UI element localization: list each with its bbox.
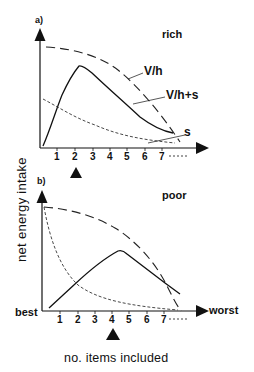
leader-v-hs: [133, 97, 165, 104]
tick-label: 3: [92, 314, 98, 325]
tick-label: 5: [124, 151, 130, 162]
tick-label: 3: [90, 151, 96, 162]
tick-label: 5: [126, 314, 132, 325]
optimum-marker-a-icon: [70, 167, 82, 178]
label-v-hs: V/h+s: [166, 88, 198, 102]
curve-v-hs-b: [49, 251, 180, 308]
x-axis-arrow-a: [196, 142, 209, 154]
tick-label: 1: [57, 314, 63, 325]
y-axis-arrow-b: [37, 190, 48, 203]
y-axis-arrow-a: [35, 28, 46, 41]
tick-label: 6: [144, 314, 150, 325]
tick-label: 6: [142, 151, 148, 162]
x-end-label: worst: [209, 304, 238, 316]
tick-label: 7: [159, 151, 165, 162]
curve-s-a: [43, 99, 175, 143]
panel-b-letter: b): [37, 176, 46, 186]
label-s: s: [184, 125, 191, 139]
x-start-label: best: [15, 306, 38, 318]
tick-label: 4: [107, 151, 113, 162]
optimum-marker-b-icon: [106, 328, 120, 340]
x-axis-arrow-b: [196, 305, 209, 317]
label-v-h: V/h: [144, 64, 163, 78]
panel-a-letter: a): [35, 15, 43, 25]
curve-v-h-a: [46, 47, 180, 142]
tick-label: 2: [72, 151, 78, 162]
x-axis-label: no. items included: [64, 351, 168, 365]
tick-label: 7: [161, 314, 167, 325]
tick-label: 2: [75, 314, 81, 325]
y-axis-label: net energy intake: [14, 157, 29, 262]
leader-v-h: [128, 73, 143, 79]
panel-a: [35, 28, 210, 178]
tick-label: 4: [109, 314, 115, 325]
panel-a-condition: rich: [162, 28, 182, 40]
curve-v-h-b: [44, 207, 181, 311]
tick-label: 1: [54, 151, 60, 162]
panel-b-condition: poor: [162, 189, 186, 201]
